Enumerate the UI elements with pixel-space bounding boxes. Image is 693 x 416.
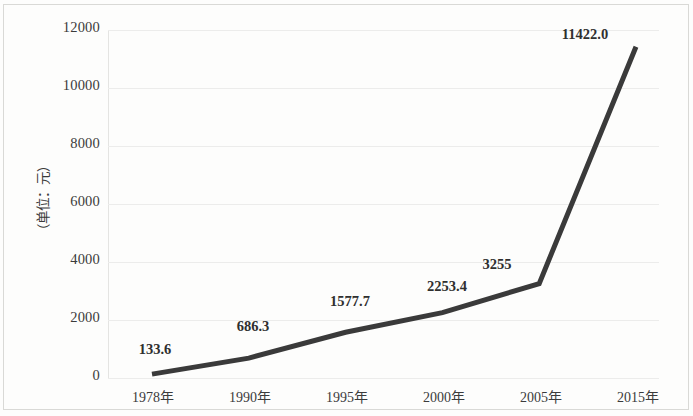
data-label-2005: 3255: [442, 256, 552, 273]
x-axis-tick-label-1995: 1995年: [299, 386, 395, 406]
data-label-1995: 1577.7: [295, 293, 405, 310]
x-axis-tick-label-1990: 1990年: [202, 386, 298, 406]
data-label-2015: 11422.0: [530, 26, 640, 43]
x-axis-tick-label-2015: 2015年: [590, 386, 686, 406]
chart-page: 12000 10000 8000 6000 4000 2000 0 （单位：元）…: [0, 0, 693, 416]
data-label-2000: 2253.4: [392, 278, 502, 295]
x-axis-tick-label-2005: 2005年: [493, 386, 589, 406]
x-axis-tick-label-1978: 1978年: [105, 386, 201, 406]
plot-area: 12000 10000 8000 6000 4000 2000 0 （单位：元）…: [0, 0, 693, 416]
data-label-1978: 133.6: [100, 341, 210, 358]
data-label-1990: 686.3: [198, 318, 308, 335]
x-axis-tick-label-2000: 2000年: [396, 386, 492, 406]
